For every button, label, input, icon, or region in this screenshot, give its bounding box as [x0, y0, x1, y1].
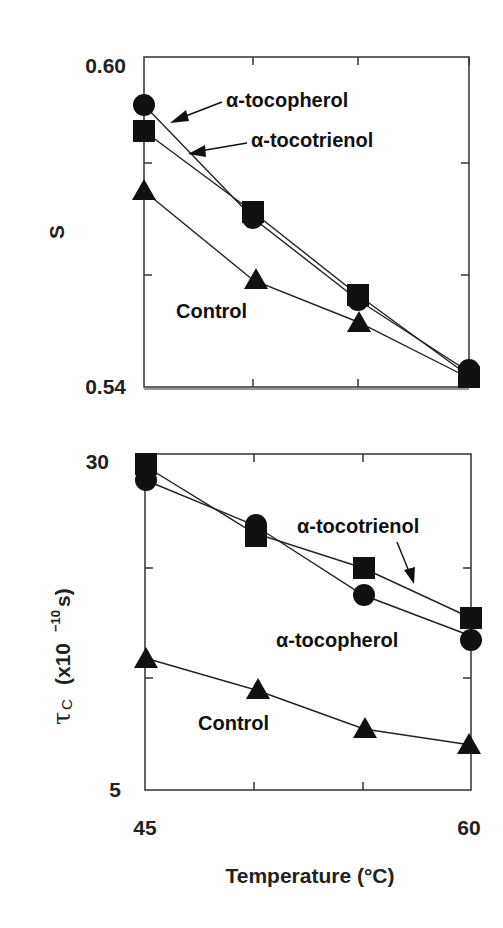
- top-annotation-tocotrienol: α-tocotrienol: [251, 129, 373, 151]
- svg-text:τ: τ: [48, 712, 76, 725]
- bottom-markers-tocotrienol: [135, 453, 482, 629]
- top-annotation-tocopherol: α-tocopherol: [226, 89, 348, 111]
- top-y-axis-title: S: [45, 225, 68, 239]
- x-axis-title: Temperature (°C): [225, 864, 394, 887]
- bottom-x-ticks: [254, 454, 363, 790]
- bottom-y-axis-title: τ C (x10 −10 s): [48, 588, 76, 725]
- top-y-ticks: [144, 163, 469, 275]
- top-ytick-min: 0.54: [85, 375, 126, 398]
- xtick-60: 60: [457, 816, 480, 839]
- bottom-chart: 30 5 τ C (x10 −10 s) α-tocotrienol α-toc…: [48, 450, 482, 887]
- bottom-plot-frame: [145, 454, 471, 790]
- top-line-control: [144, 191, 469, 378]
- top-chart: 0.60 0.54 S α-tocopherol α-tocotrienol C…: [45, 54, 480, 398]
- svg-text:C: C: [58, 699, 75, 710]
- svg-text:(x10: (x10: [51, 643, 74, 685]
- figure: 0.60 0.54 S α-tocopherol α-tocotrienol C…: [0, 0, 503, 928]
- bottom-line-tocotrienol: [145, 466, 471, 618]
- bottom-annotation-tocopherol: α-tocopherol: [276, 629, 398, 651]
- arrow-icon: [170, 110, 189, 123]
- bottom-ytick-max: 30: [86, 450, 109, 473]
- bottom-annotation-tocotrienol: α-tocotrienol: [297, 515, 419, 537]
- top-annotation-control: Control: [176, 300, 247, 322]
- arrow-icon: [188, 145, 206, 157]
- bottom-ytick-min: 5: [109, 778, 121, 801]
- bottom-line-tocopherol: [145, 480, 471, 636]
- xtick-45: 45: [133, 816, 157, 839]
- bottom-series-lines: [145, 466, 471, 745]
- svg-text:−10: −10: [48, 610, 63, 632]
- svg-text:s): s): [51, 588, 74, 607]
- bottom-y-ticks: [145, 568, 471, 678]
- top-line-tocotrienol: [144, 131, 469, 376]
- arrow-icon: [404, 567, 415, 584]
- top-ytick-max: 0.60: [85, 54, 126, 77]
- bottom-annotation-control: Control: [198, 712, 269, 734]
- bottom-line-control: [145, 658, 471, 745]
- bottom-markers-control: [134, 647, 481, 754]
